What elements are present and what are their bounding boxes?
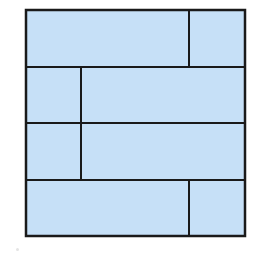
row-4-right-cell: [189, 180, 245, 236]
partitioned-square-diagram: [0, 0, 265, 255]
row-1-left-cell: [26, 10, 189, 67]
stray-mark: [16, 248, 19, 251]
row-1-right-cell: [189, 10, 245, 67]
row-2-left-cell: [26, 67, 81, 123]
row-3-left-cell: [26, 123, 81, 180]
row-4-left-cell: [26, 180, 189, 236]
row-2-right-cell: [81, 67, 245, 123]
row-3-right-cell: [81, 123, 245, 180]
